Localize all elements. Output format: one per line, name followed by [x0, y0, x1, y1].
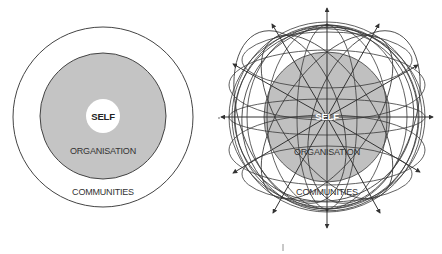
south-pole-node [326, 209, 329, 212]
sphere-diagram: SELF ORGANISATION COMMUNITIES [212, 8, 442, 228]
north-pole-node [326, 24, 329, 27]
stray-dot [218, 117, 220, 119]
self-label: SELF [91, 111, 115, 122]
figure-canvas: SELF ORGANISATION COMMUNITIES [0, 0, 442, 254]
sphere-organisation-label: ORGANISATION [294, 147, 360, 157]
sphere-communities-label: COMMUNITIES [296, 187, 358, 197]
concentric-diagram: SELF ORGANISATION COMMUNITIES [13, 27, 193, 207]
communities-label: COMMUNITIES [72, 187, 134, 197]
sphere-self-label: SELF [315, 111, 339, 122]
organisation-label: ORGANISATION [70, 146, 136, 156]
